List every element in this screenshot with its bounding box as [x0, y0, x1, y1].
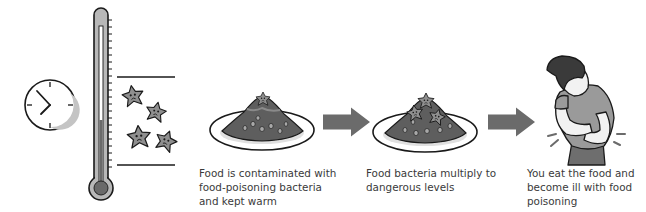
- caption-line: and kept warm: [199, 194, 336, 208]
- caption-line: poisoning: [527, 194, 635, 208]
- caption-line: You eat the food and: [527, 166, 635, 180]
- food-plate-icon: [210, 92, 314, 150]
- thermometer-icon: [89, 8, 113, 200]
- caption-line: food-poisoning bacteria: [199, 180, 336, 194]
- arrow-right-icon: [323, 108, 370, 137]
- caption-step-3: You eat the food and become ill with foo…: [527, 166, 635, 208]
- caption-line: dangerous levels: [366, 180, 496, 194]
- danger-zone: [117, 77, 175, 165]
- caption-line: Food is contaminated with: [199, 166, 336, 180]
- arrow-right-icon: [488, 108, 535, 137]
- caption-step-2: Food bacteria multiply to dangerous leve…: [366, 166, 496, 194]
- sick-person-icon: [547, 56, 625, 165]
- caption-line: Food bacteria multiply to: [366, 166, 496, 180]
- bacteria-icon: [121, 84, 180, 154]
- caption-line: become ill with food: [527, 180, 635, 194]
- caption-step-1: Food is contaminated with food-poisoning…: [199, 166, 336, 208]
- food-plate-bacteria-icon: [373, 93, 477, 152]
- clock-icon: [25, 80, 80, 130]
- food-poisoning-diagram: Food is contaminated with food-poisoning…: [0, 0, 646, 212]
